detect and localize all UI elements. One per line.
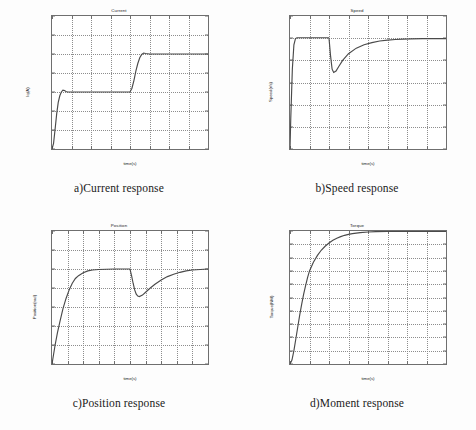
caption-torque: d)Moment response	[310, 397, 404, 409]
x-tick-mark	[446, 231, 447, 234]
figure-grid: Current Iq(A) 00.20.40.60.811.21.400.050…	[0, 0, 476, 430]
panel-torque: Torque Torque(NM) 00.20.40.60.811.21.41.…	[238, 215, 476, 430]
y-axis-label-torque: Torque(NM)	[270, 296, 274, 319]
panel-current: Current Iq(A) 00.20.40.60.811.21.400.050…	[0, 0, 238, 215]
data-curve	[52, 16, 208, 149]
chart-current: Current Iq(A) 00.20.40.60.811.21.400.050…	[21, 8, 217, 176]
caption-speed: b)Speed response	[315, 182, 398, 194]
panel-speed: Speed Speed(r/s) 010020030040050060000.0…	[238, 0, 476, 215]
y-axis-label-speed: Speed(r/s)	[269, 82, 273, 102]
caption-position: c)Position response	[73, 397, 166, 409]
data-curve	[290, 231, 446, 364]
chart-position: Position Position(rad) 00.20.40.60.811.2…	[21, 223, 217, 391]
x-tick-mark	[446, 361, 447, 364]
chart-torque: Torque Torque(NM) 00.20.40.60.811.21.41.…	[259, 223, 455, 391]
x-tick-mark	[208, 361, 209, 364]
x-tick-mark	[446, 146, 447, 149]
y-axis-label-position: Position(rad)	[33, 295, 37, 319]
x-tick-mark	[208, 231, 209, 234]
chart-title-position: Position	[21, 223, 217, 228]
data-curve	[52, 231, 208, 364]
chart-title-current: Current	[21, 8, 217, 13]
series-line	[290, 231, 446, 364]
chart-speed: Speed Speed(r/s) 010020030040050060000.0…	[259, 8, 455, 176]
y-axis-label-current: Iq(A)	[26, 87, 30, 96]
x-axis-label-speed: time(s)	[289, 162, 447, 166]
x-tick-mark	[208, 146, 209, 149]
plot-area-position: 00.20.40.60.811.21.400.10.20.30.40.50.60…	[51, 230, 209, 365]
plot-area-current: 00.20.40.60.811.21.400.050.10.150.20.250…	[51, 15, 209, 150]
plot-area-torque: 00.20.40.60.811.21.41.61.8200.050.10.150…	[289, 230, 447, 365]
series-line	[52, 53, 208, 149]
figure-sheet: Current Iq(A) 00.20.40.60.811.21.400.050…	[0, 0, 476, 430]
x-tick-mark	[446, 16, 447, 19]
x-tick-mark	[208, 16, 209, 19]
series-line	[290, 38, 446, 149]
caption-current: a)Current response	[74, 182, 164, 194]
data-curve	[290, 16, 446, 149]
x-axis-label-torque: time(s)	[289, 377, 447, 381]
chart-title-torque: Torque	[259, 223, 455, 228]
plot-area-speed: 010020030040050060000.050.10.150.20.250.…	[289, 15, 447, 150]
x-axis-label-position: time(s)	[51, 377, 209, 381]
panel-position: Position Position(rad) 00.20.40.60.811.2…	[0, 215, 238, 430]
x-axis-label-current: time(s)	[51, 162, 209, 166]
chart-title-speed: Speed	[259, 8, 455, 13]
series-line	[52, 269, 208, 364]
